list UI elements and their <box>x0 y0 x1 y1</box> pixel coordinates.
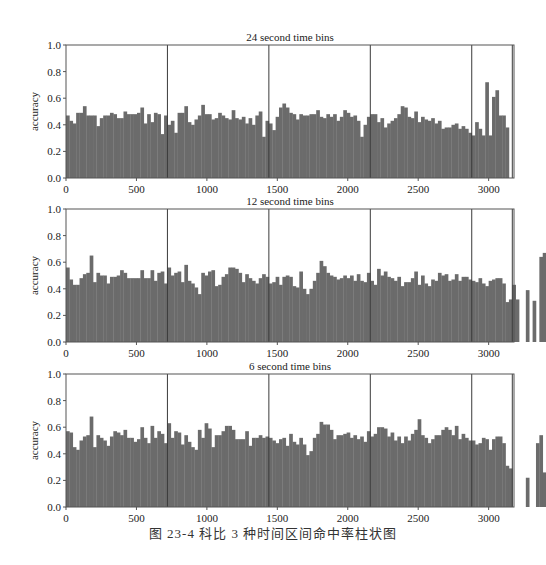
bar <box>110 437 114 507</box>
bar <box>127 438 131 507</box>
bar <box>76 450 80 507</box>
bar <box>117 433 121 507</box>
bar <box>144 438 148 507</box>
bar <box>252 438 256 507</box>
bar <box>306 455 310 507</box>
bar <box>326 425 330 507</box>
bar <box>428 443 432 507</box>
bar <box>255 438 259 507</box>
bar <box>249 446 253 507</box>
bar <box>340 435 344 507</box>
y-tick-label: 0.4 <box>47 119 61 131</box>
bar <box>191 447 195 507</box>
chart-svg: 12 second time bins0.00.20.40.60.81.0050… <box>0 164 546 354</box>
bar <box>282 438 286 507</box>
chart-title: 6 second time bins <box>249 360 331 372</box>
bar <box>387 437 391 507</box>
bar <box>424 438 428 507</box>
bar <box>296 444 300 507</box>
y-axis-label: accuracy <box>28 420 40 460</box>
bar <box>222 431 226 507</box>
bar <box>161 434 165 507</box>
bar <box>157 431 161 507</box>
bar <box>198 430 202 507</box>
bar <box>539 435 543 507</box>
bar <box>73 447 77 507</box>
bar <box>472 441 476 508</box>
bar <box>347 433 351 507</box>
bar <box>154 438 158 507</box>
bar <box>194 450 198 507</box>
bar <box>448 430 452 507</box>
bar <box>242 439 246 507</box>
bar <box>380 427 384 507</box>
bar <box>370 437 374 507</box>
bar <box>320 422 324 507</box>
bar <box>134 442 138 507</box>
bar <box>526 478 530 507</box>
y-tick-label: 0.6 <box>47 421 61 433</box>
bar <box>407 441 411 508</box>
bar <box>235 439 239 507</box>
bar <box>506 466 510 507</box>
bar <box>316 434 320 507</box>
y-tick-label: 0.0 <box>47 501 61 513</box>
bar <box>100 438 104 507</box>
bar <box>93 447 97 507</box>
bar <box>451 435 455 507</box>
chart-title: 12 second time bins <box>246 195 334 207</box>
y-tick-label: 0.8 <box>47 66 61 78</box>
bar <box>259 435 263 507</box>
bar <box>113 431 117 507</box>
bar <box>401 443 405 507</box>
bar <box>181 444 185 507</box>
bar <box>492 439 496 507</box>
bar <box>90 417 94 507</box>
bar <box>489 450 493 507</box>
bar <box>140 427 144 507</box>
bar <box>205 423 209 507</box>
bar <box>293 442 297 507</box>
bar <box>130 438 134 507</box>
bar <box>103 441 107 508</box>
bar <box>323 425 327 507</box>
bar <box>502 443 506 507</box>
bar <box>330 430 334 507</box>
bar <box>225 426 229 507</box>
y-tick-label: 0.6 <box>47 256 61 268</box>
bar <box>333 439 337 507</box>
bar <box>215 435 219 507</box>
bar <box>482 438 486 507</box>
y-tick-label: 1.0 <box>47 203 61 215</box>
bar <box>232 430 236 507</box>
chart-svg: 24 second time bins0.00.20.40.60.81.0050… <box>0 0 546 190</box>
bar <box>455 426 459 507</box>
y-tick-label: 0.8 <box>47 230 61 242</box>
bar <box>309 451 313 507</box>
bar <box>364 442 368 507</box>
y-tick-label: 1.0 <box>47 368 61 380</box>
bar <box>245 431 249 507</box>
bar <box>536 443 540 507</box>
bar <box>218 435 222 507</box>
bar <box>458 439 462 507</box>
bar <box>69 433 73 507</box>
y-tick-label: 0.6 <box>47 92 61 104</box>
bar <box>465 438 469 507</box>
bar <box>123 430 127 507</box>
bar <box>421 435 425 507</box>
y-tick-label: 0.2 <box>47 474 61 486</box>
bar <box>478 443 482 507</box>
bar <box>272 441 276 508</box>
bar <box>184 435 188 507</box>
bar <box>238 439 242 507</box>
bar <box>120 435 124 507</box>
bar <box>96 435 100 507</box>
bar <box>188 442 192 507</box>
bar <box>441 430 445 507</box>
bar <box>391 433 395 507</box>
bar <box>384 429 388 507</box>
bar <box>86 435 90 507</box>
bar <box>394 441 398 508</box>
chart-svg: 6 second time bins0.00.20.40.60.81.00500… <box>0 329 546 519</box>
